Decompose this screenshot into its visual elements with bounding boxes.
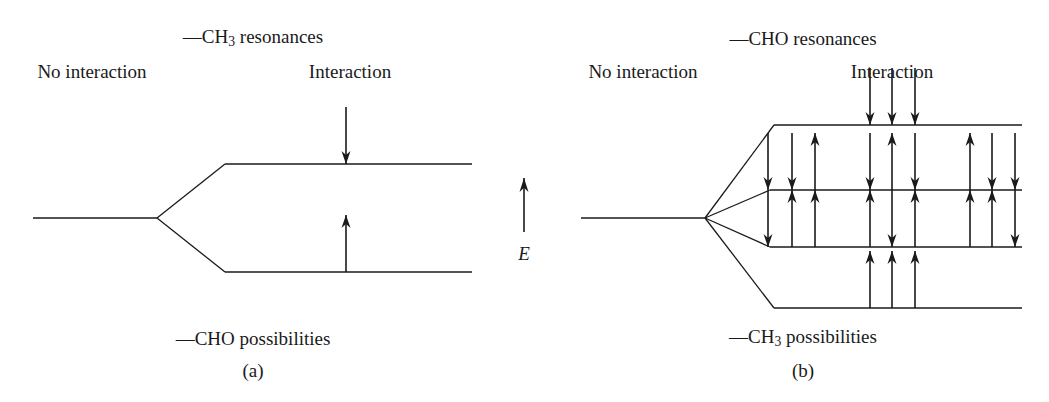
panel-b-bottom-label-dash: —CH (729, 326, 774, 347)
panel-b-bottom-label-rest: possibilities (781, 326, 877, 347)
panel-a-left-header: No interaction (37, 62, 146, 81)
panel-a-caption: (a) (242, 361, 263, 380)
panel-b-level-4-arrow-3-up (911, 251, 920, 308)
panel-b-top-label: —CHO resonances (729, 29, 876, 48)
panel-b-level-3-arrow-1-down (764, 190, 773, 247)
panel-a-lower-level-arrow-1-up (342, 215, 351, 272)
panel-a-top-label-dash: —CH (183, 26, 228, 47)
panel-b-level-2-arrow-5-up (888, 133, 897, 190)
panel-b-right-header: Interaction (851, 62, 933, 81)
panel-a-bottom-label-text: —CHO possibilities (176, 328, 331, 349)
panel-a-lower-level-branch (157, 218, 225, 272)
panel-b-caption: (b) (792, 361, 814, 380)
panel-b-level-4-arrow-2-up (888, 251, 897, 308)
panel-b-level-3-arrow-7-up (966, 190, 975, 247)
panel-a-bottom-label: —CHO possibilities (176, 329, 331, 348)
panel-b-level-2-arrow-8-down (988, 133, 997, 190)
panel-b-bottom-label: —CH3 possibilities (729, 327, 877, 349)
panel-b-level-3-branch (705, 218, 770, 247)
panel-b-level-3-arrow-8-up (988, 190, 997, 247)
panel-a-upper-level-branch (157, 164, 225, 218)
panel-b-level-3-arrow-3-up (811, 190, 820, 247)
panel-b-level-3-arrow-5-down (888, 190, 897, 247)
energy-level-diagram-figure: —CH3 resonances No interaction Interacti… (0, 0, 1049, 402)
panel-b-level-3-arrow-4-up (866, 190, 875, 247)
panel-b-level-2-arrow-2-down (788, 133, 797, 190)
panel-b-level-4-branch (705, 218, 774, 308)
energy-axis-label: E (518, 244, 530, 263)
panel-a-right-header: Interaction (309, 62, 391, 81)
panel-b-level-2-arrow-6-down (911, 133, 920, 190)
panel-a-top-label: —CH3 resonances (183, 27, 323, 49)
panel-b-left-header: No interaction (588, 62, 697, 81)
panel-b-level-3-arrow-9-down (1011, 190, 1020, 247)
level-lines-group (33, 125, 1022, 308)
panel-b-level-2-arrow-1-down (764, 133, 773, 190)
panel-b-level-2-arrow-3-up (811, 133, 820, 190)
panel-b-level-3-arrow-6-up (911, 190, 920, 247)
panel-b-top-label-text: —CHO resonances (729, 28, 876, 49)
panel-b-level-2-arrow-9-down (1011, 133, 1020, 190)
panel-a-top-label-rest: resonances (235, 26, 323, 47)
panel-b-level-3-arrow-2-up (788, 190, 797, 247)
panel-b-level-1-branch (705, 125, 774, 218)
panel-a-upper-level-arrow-1-down (342, 107, 351, 164)
panel-b-level-2-arrow-7-up (966, 133, 975, 190)
panel-b-level-4-arrow-1-up (866, 251, 875, 308)
panel-b-level-2-arrow-4-down (866, 133, 875, 190)
energy-axis-group (520, 178, 529, 232)
